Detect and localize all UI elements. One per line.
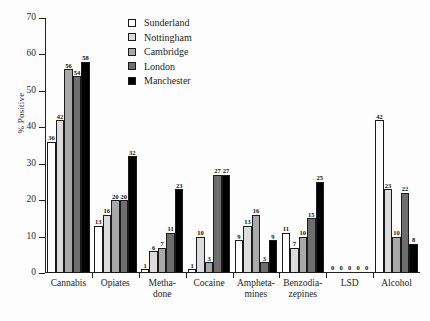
bar[interactable]: 3 [205, 262, 214, 273]
legend-label: London [144, 60, 175, 73]
bar[interactable]: 27 [213, 175, 222, 273]
bar-value-label: 11 [283, 225, 289, 233]
bar-value-label: 0 [331, 264, 334, 272]
bar[interactable]: 9 [235, 240, 244, 273]
bar-value-label: 36 [48, 134, 55, 142]
bar-slot: 10 [392, 18, 401, 273]
bar[interactable]: 20 [111, 200, 120, 273]
y-axis-tick-label: 50 [27, 84, 37, 97]
bar[interactable]: 22 [401, 193, 410, 273]
bar[interactable]: 7 [158, 248, 167, 274]
bar[interactable]: 10 [196, 237, 205, 273]
y-axis-tick: 0 [39, 273, 45, 274]
bar-value-label: 10 [393, 229, 400, 237]
bar-value-label: 15 [308, 211, 315, 219]
legend-swatch-icon [128, 19, 136, 27]
bar[interactable]: 1 [188, 269, 197, 273]
y-axis-tick-label: 10 [27, 230, 37, 243]
bar[interactable]: 32 [128, 156, 137, 273]
bar-slot: 20 [111, 18, 120, 273]
legend-item-london[interactable]: London [128, 60, 192, 73]
bar[interactable]: 15 [307, 218, 316, 273]
bar-slot: 13 [94, 18, 103, 273]
bar[interactable]: 58 [81, 62, 90, 273]
bar-value-label: 13 [244, 218, 251, 226]
bar-value-label: 20 [112, 193, 119, 201]
bar[interactable]: 10 [392, 237, 401, 273]
bar-value-label: 1 [190, 262, 193, 270]
bar[interactable]: 54 [73, 76, 82, 273]
bar-slot: 54 [73, 18, 82, 273]
bar-slot: 42 [375, 18, 384, 273]
bar-slot: 56 [64, 18, 73, 273]
bar-slot: 16 [103, 18, 112, 273]
bar[interactable]: 11 [282, 233, 291, 273]
bar-group: 9131639 [233, 18, 280, 273]
bar-slot: 22 [401, 18, 410, 273]
bar-value-label: 3 [263, 255, 266, 263]
bar-value-label: 0 [348, 264, 351, 272]
bar-slot: 23 [384, 18, 393, 273]
legend-swatch-icon [128, 33, 136, 41]
bar-value-label: 0 [365, 264, 368, 272]
bar-group-bars: 117101525 [279, 18, 326, 273]
bar-value-label: 32 [129, 149, 136, 157]
bar[interactable]: 8 [409, 244, 418, 273]
bar[interactable]: 3 [260, 262, 269, 273]
bar-value-label: 27 [214, 167, 221, 175]
bar-value-label: 58 [82, 54, 89, 62]
bar-value-label: 23 [385, 182, 392, 190]
bar-value-label: 0 [340, 264, 343, 272]
bar[interactable]: 20 [120, 200, 129, 273]
bar-chart: % Positive 010203040506070 3642565458131… [0, 0, 430, 321]
bar[interactable]: 1 [141, 269, 150, 273]
bar-value-label: 54 [74, 69, 81, 77]
legend-item-nottingham[interactable]: Nottingham [128, 31, 192, 44]
bar[interactable]: 7 [290, 248, 299, 274]
bar-group-bars: 11032727 [186, 18, 233, 273]
legend-swatch-icon [128, 48, 136, 56]
bar[interactable]: 25 [316, 182, 325, 273]
bar-group-bars: 9131639 [233, 18, 280, 273]
legend-item-sunderland[interactable]: Sunderland [128, 16, 192, 29]
bar-value-label: 3 [207, 255, 210, 263]
bar[interactable]: 42 [375, 120, 384, 273]
bar-value-label: 11 [168, 225, 174, 233]
bar-group: 422310228 [373, 18, 420, 273]
bar-value-label: 0 [357, 264, 360, 272]
bar-slot: 3 [205, 18, 214, 273]
bar[interactable]: 56 [64, 69, 73, 273]
bar[interactable]: 42 [56, 120, 65, 273]
bar[interactable]: 23 [175, 189, 184, 273]
bar-value-label: 23 [176, 182, 183, 190]
bar-value-label: 22 [402, 185, 409, 193]
bar-slot: 11 [282, 18, 291, 273]
bar-value-label: 8 [412, 236, 415, 244]
bar[interactable]: 23 [384, 189, 393, 273]
bar[interactable]: 16 [252, 215, 261, 273]
bar[interactable]: 11 [166, 233, 175, 273]
bar[interactable]: 36 [47, 142, 56, 273]
bar[interactable]: 10 [299, 237, 308, 273]
bar-slot: 16 [252, 18, 261, 273]
bar-slot: 42 [56, 18, 65, 273]
bar[interactable]: 16 [103, 215, 112, 273]
y-axis-tick-label: 30 [27, 157, 37, 170]
plot-area: 010203040506070 364256545813162020321671… [45, 18, 420, 273]
bar[interactable]: 13 [243, 226, 252, 273]
bar-slot: 25 [316, 18, 325, 273]
bar-group-bars: 422310228 [373, 18, 420, 273]
bar-group: 3642565458 [45, 18, 92, 273]
bar-group-bars: 00000 [326, 18, 373, 273]
legend-item-cambridge[interactable]: Cambridge [128, 45, 192, 58]
legend-item-manchester[interactable]: Manchester [128, 74, 192, 87]
bar-value-label: 9 [237, 233, 240, 241]
bar[interactable]: 27 [222, 175, 231, 273]
bar[interactable]: 9 [269, 240, 278, 273]
bar-slot: 10 [299, 18, 308, 273]
bar[interactable]: 13 [94, 226, 103, 273]
legend-label: Cambridge [144, 45, 188, 58]
bar[interactable]: 6 [149, 251, 158, 273]
bar-value-label: 16 [104, 207, 111, 215]
bar-slot: 20 [120, 18, 129, 273]
